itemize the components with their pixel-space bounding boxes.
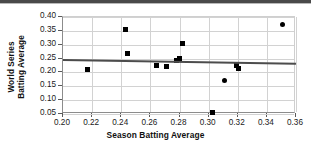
x-axis-tick-label: 0.36: [278, 118, 311, 127]
y-axis-title-line-1: World Series: [7, 41, 18, 92]
gridline-horizontal: [63, 86, 294, 87]
data-point: [123, 27, 128, 32]
gridline-vertical: [296, 17, 297, 112]
y-axis-tick-label: 0.05: [22, 108, 56, 117]
data-point: [280, 22, 285, 27]
y-axis-tick-label: 0.40: [22, 11, 56, 20]
gridline-horizontal: [63, 72, 294, 73]
y-axis-tick-label: 0.10: [22, 94, 56, 103]
y-axis-tick-label: 0.30: [22, 39, 56, 48]
data-point: [164, 64, 169, 69]
gridline-horizontal: [63, 100, 294, 101]
y-axis-tick-label: 0.15: [22, 80, 56, 89]
gridline-vertical: [150, 17, 151, 112]
gridline-vertical: [267, 17, 268, 112]
gridline-vertical: [92, 17, 93, 112]
gridline-vertical: [180, 17, 181, 112]
x-axis-title: Season Batting Average: [0, 130, 311, 140]
gridline-horizontal: [63, 31, 294, 32]
y-axis-tick-label: 0.25: [22, 53, 56, 62]
y-axis-tick-label: 0.20: [22, 66, 56, 75]
top-divider-rule-light: [0, 3, 311, 4]
x-axis-tick-mark: [295, 113, 296, 117]
data-point: [236, 66, 241, 71]
data-point: [210, 110, 215, 115]
data-point: [85, 67, 90, 72]
data-point: [222, 78, 227, 83]
gridline-horizontal: [63, 45, 294, 46]
data-point: [154, 63, 159, 68]
data-point: [125, 51, 130, 56]
data-point: [180, 41, 185, 46]
gridline-vertical: [121, 17, 122, 112]
gridline-horizontal: [63, 114, 294, 115]
gridline-horizontal: [63, 17, 294, 18]
plot-area: [62, 16, 295, 113]
scatter-chart-figure: World Series Batting Average Season Batt…: [0, 0, 311, 147]
y-axis-tick-label: 0.35: [22, 25, 56, 34]
gridline-vertical: [209, 17, 210, 112]
